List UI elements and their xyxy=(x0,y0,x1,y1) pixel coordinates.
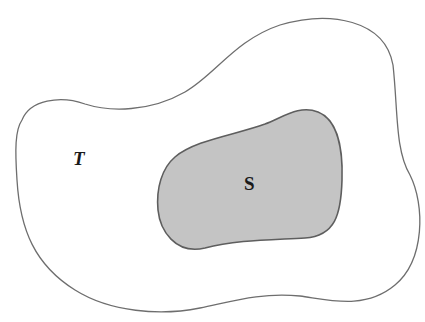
inner-set-label: S xyxy=(244,173,255,194)
outer-set-label: T xyxy=(73,148,86,169)
venn-diagram: T S xyxy=(0,0,425,322)
